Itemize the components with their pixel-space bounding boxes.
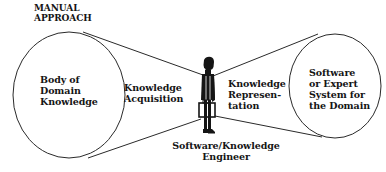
domain-knowledge-label: Body of Domain Knowledge [40, 74, 98, 107]
expert-system-label: Software or Expert System for the Domain [309, 67, 370, 111]
knowledge-acquisition-label: Knowledge Acquisition [124, 82, 183, 104]
engineer-label: Software/Knowledge Engineer [163, 140, 289, 162]
acquisition-top-line [83, 32, 203, 75]
diagram-title: MANUAL APPROACH [34, 3, 92, 23]
engineer-person-icon [199, 57, 215, 134]
knowledge-representation-label: Knowledge Represen- tation [228, 78, 286, 111]
representation-top-line [213, 34, 318, 76]
